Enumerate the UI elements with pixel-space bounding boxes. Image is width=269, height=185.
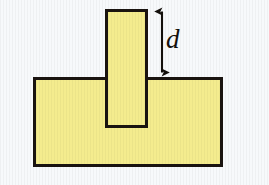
vertical-bar [107,11,147,127]
bar-slab-junction-mask [108,76,144,82]
diagram-svg [0,0,269,185]
figure-canvas: d [0,0,269,185]
dimension-label-d: d [166,26,180,53]
